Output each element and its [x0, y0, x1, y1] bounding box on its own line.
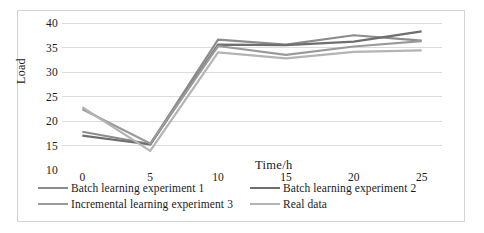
plot-area: [62, 23, 442, 170]
chart-figure: Load 40353025201510 Time/h 0510152025 Ba…: [0, 0, 484, 233]
legend-label: Batch learning experiment 1: [71, 182, 204, 195]
y-tick-30: 30: [30, 66, 58, 78]
legend-label: Incremental learning experiment 3: [71, 198, 233, 211]
legend-item-2[interactable]: Batch learning experiment 2: [250, 180, 416, 196]
legend-row-1: Batch learning experiment 1Batch learnin…: [38, 180, 448, 196]
y-tick-25: 25: [30, 91, 58, 103]
legend-label: Batch learning experiment 2: [283, 182, 416, 195]
legend-swatch-icon: [38, 187, 68, 190]
series-line-3: [82, 41, 421, 143]
legend-item-1[interactable]: Batch learning experiment 1: [38, 180, 204, 196]
line-chart-svg: [62, 23, 442, 170]
legend-swatch-icon: [250, 203, 280, 206]
legend-swatch-icon: [38, 203, 68, 206]
y-tick-15: 15: [30, 140, 58, 152]
y-axis-tick-labels: 40353025201510: [30, 16, 58, 177]
y-axis-title: Load: [14, 58, 29, 84]
legend-item-4[interactable]: Real data: [250, 196, 327, 212]
chart-legend: Batch learning experiment 1Batch learnin…: [38, 180, 448, 216]
legend-row-2: Incremental learning experiment 3Real da…: [38, 196, 448, 212]
legend-swatch-icon: [250, 187, 280, 190]
legend-item-3[interactable]: Incremental learning experiment 3: [38, 196, 233, 212]
series-line-2: [82, 31, 421, 144]
y-tick-40: 40: [30, 17, 58, 29]
y-tick-20: 20: [30, 115, 58, 127]
series-lines: [82, 31, 421, 151]
legend-label: Real data: [283, 198, 327, 211]
y-tick-10: 10: [30, 164, 58, 176]
y-tick-35: 35: [30, 42, 58, 54]
